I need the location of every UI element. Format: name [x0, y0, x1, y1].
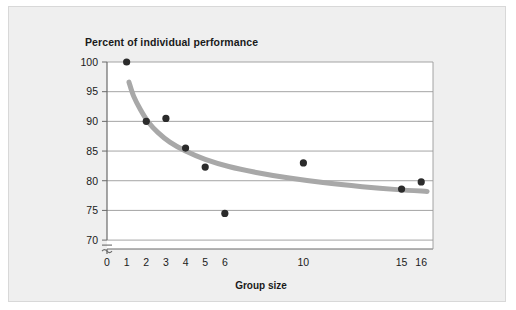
data-point: [162, 115, 169, 122]
x-tick-label: 4: [183, 256, 189, 268]
x-tick-label: 3: [163, 256, 169, 268]
x-axis-label: Group size: [9, 280, 516, 291]
data-point: [202, 163, 209, 170]
y-tick-label: 100: [80, 56, 98, 68]
y-tick-label: 70: [86, 234, 98, 246]
x-tick-label: 6: [222, 256, 228, 268]
y-tick-label: 95: [86, 85, 98, 97]
x-tick-label: 5: [202, 256, 208, 268]
data-point: [398, 185, 405, 192]
y-tick-label: 80: [86, 175, 98, 187]
x-tick-label: 10: [298, 256, 310, 268]
data-point: [143, 118, 150, 125]
chart-plot-area: 707580859095100 0123456101516: [9, 7, 507, 303]
x-tick-label: 2: [143, 256, 149, 268]
data-point: [123, 58, 130, 65]
plot-background: [107, 62, 433, 249]
data-point: [300, 159, 307, 166]
x-tick-label: 1: [124, 256, 130, 268]
data-point: [418, 178, 425, 185]
y-tick-group: 707580859095100: [80, 56, 107, 246]
y-tick-label: 85: [86, 145, 98, 157]
x-tick-label-group: 0123456101516: [104, 256, 427, 268]
x-tick-label: 0: [104, 256, 110, 268]
x-tick-label: 16: [415, 256, 427, 268]
y-tick-label: 90: [86, 115, 98, 127]
y-tick-label: 75: [86, 204, 98, 216]
data-point: [221, 210, 228, 217]
figure-panel: Percent of individual performance 707580…: [8, 6, 506, 302]
data-point: [182, 144, 189, 151]
x-tick-label: 15: [396, 256, 408, 268]
